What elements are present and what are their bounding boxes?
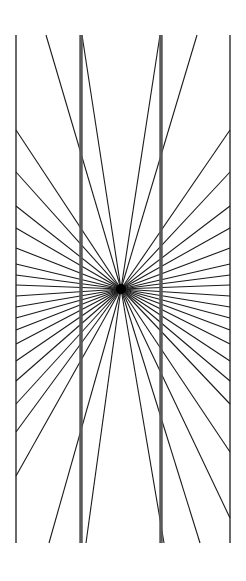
ray-line [121,228,230,289]
hering-illusion-figure [0,0,246,581]
ray-line [121,289,230,361]
ray-line [46,35,121,289]
ray-line [121,130,230,289]
ray-line [82,35,121,289]
center-point [116,284,126,294]
ray-line [16,289,121,361]
ray-line [16,289,121,307]
ray-line [16,289,121,432]
ray-line [121,289,230,381]
ray-line [121,35,197,289]
ray-line [16,289,121,381]
ray-line [121,289,230,307]
ray-line [49,289,121,543]
ray-line [121,35,160,289]
ray-line [16,248,121,289]
ray-line [121,248,230,289]
ray-line [86,289,121,543]
radiating-lines [16,35,230,543]
ray-line [16,130,121,289]
ray-line [121,289,230,344]
ray-line [121,172,230,289]
